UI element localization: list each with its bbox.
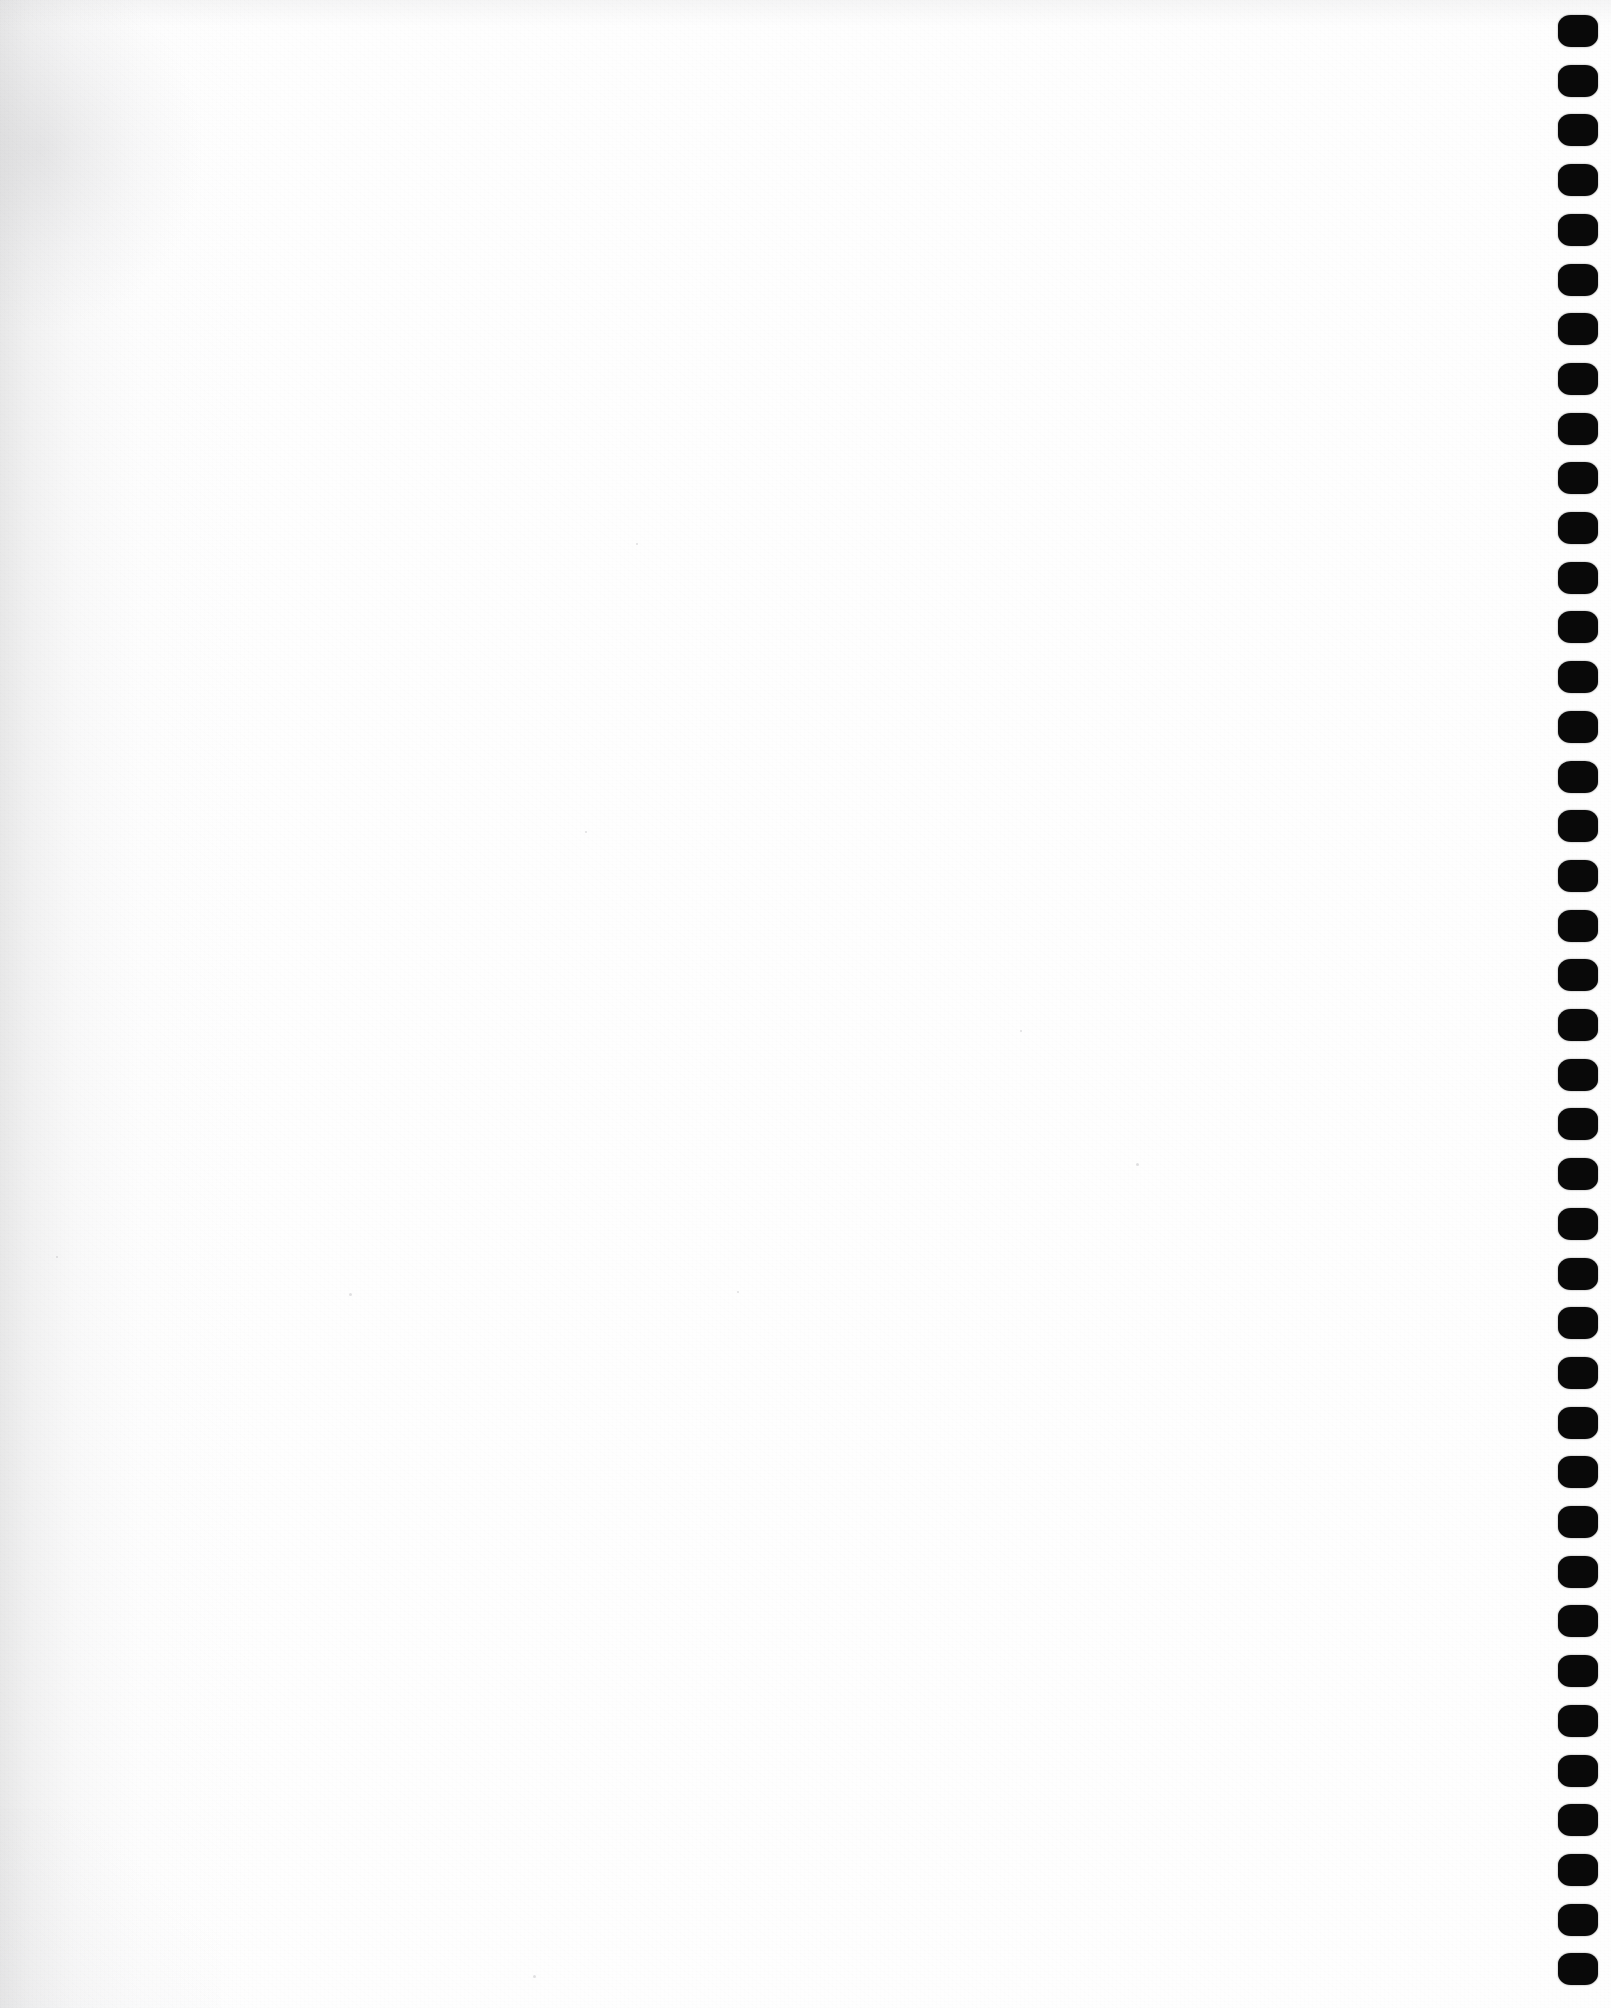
binding-hole (1558, 711, 1598, 743)
binding-hole (1558, 214, 1598, 246)
binding-hole-column (1551, 0, 1611, 2008)
binding-hole (1558, 810, 1598, 842)
binding-hole (1558, 661, 1598, 693)
binding-hole (1558, 1605, 1598, 1637)
binding-hole (1558, 1407, 1598, 1439)
binding-hole (1558, 1357, 1598, 1389)
binding-hole (1558, 1655, 1598, 1687)
binding-hole (1558, 512, 1598, 544)
binding-hole (1558, 860, 1598, 892)
binding-hole (1558, 1307, 1598, 1339)
binding-hole (1558, 562, 1598, 594)
dust-speck (56, 1256, 58, 1258)
binding-hole (1558, 611, 1598, 643)
dust-speck (636, 543, 638, 545)
binding-hole (1558, 1755, 1598, 1787)
binding-hole (1558, 1258, 1598, 1290)
dust-speck (1136, 1163, 1139, 1166)
binding-hole (1558, 164, 1598, 196)
binding-hole (1558, 264, 1598, 296)
binding-hole (1558, 1108, 1598, 1140)
binding-hole (1558, 761, 1598, 793)
paper-top-edge-shadow (0, 0, 1611, 26)
scanned-page (0, 0, 1611, 2008)
binding-hole (1558, 313, 1598, 345)
binding-hole (1558, 1158, 1598, 1190)
binding-hole (1558, 413, 1598, 445)
binding-hole (1558, 910, 1598, 942)
binding-hole (1558, 1854, 1598, 1886)
dust-speck (1020, 1030, 1022, 1032)
binding-hole (1558, 1009, 1598, 1041)
binding-hole (1558, 462, 1598, 494)
paper-bottom-edge-shadow (0, 1808, 220, 2008)
binding-hole (1558, 65, 1598, 97)
binding-hole (1558, 1556, 1598, 1588)
dust-speck (533, 1975, 536, 1978)
binding-hole (1558, 1506, 1598, 1538)
dust-speck (349, 1293, 352, 1296)
binding-hole (1558, 363, 1598, 395)
dust-speck (585, 831, 587, 833)
binding-hole (1558, 1904, 1598, 1936)
paper-corner-smudge (0, 0, 300, 340)
binding-hole (1558, 1953, 1598, 1985)
binding-hole (1558, 1804, 1598, 1836)
binding-hole (1558, 959, 1598, 991)
dust-speck (737, 1291, 739, 1293)
binding-hole (1558, 15, 1598, 47)
binding-hole (1558, 1456, 1598, 1488)
binding-hole (1558, 1705, 1598, 1737)
binding-hole (1558, 1059, 1598, 1091)
binding-hole (1558, 1208, 1598, 1240)
binding-hole (1558, 114, 1598, 146)
